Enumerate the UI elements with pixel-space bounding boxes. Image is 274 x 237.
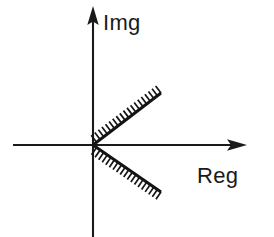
upper-ray-hatching (91, 86, 161, 142)
upper-ray (91, 86, 161, 145)
lower-ray-hatching (92, 147, 161, 199)
imaginary-axis-label: Img (103, 10, 141, 35)
real-axis (13, 139, 247, 150)
imaginary-axis (87, 6, 98, 237)
real-axis-label: Reg (197, 163, 238, 188)
lower-ray (92, 145, 161, 199)
complex-plane-figure: Img Reg (0, 0, 274, 237)
complex-plane-svg: Img Reg (0, 0, 274, 237)
